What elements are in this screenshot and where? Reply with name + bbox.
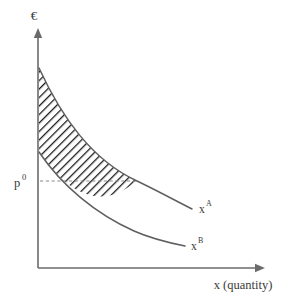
price-level-label: p 0 (14, 172, 26, 190)
curve-a-label-superscript: A (206, 199, 212, 208)
price-label-base: p (14, 176, 20, 190)
curve-b-label: x B (191, 236, 203, 252)
x-axis-label: x (quantity) (214, 278, 273, 292)
y-axis-label: € (31, 8, 38, 23)
price-label-superscript: 0 (22, 172, 26, 182)
x-axis-arrowhead (255, 264, 265, 272)
y-axis-arrowhead (34, 28, 42, 38)
curve-a-label-base: x (199, 203, 205, 215)
figure-canvas: € x (quantity) p 0 x A x B (0, 0, 286, 302)
economics-demand-curve-figure: € x (quantity) p 0 x A x B (0, 0, 286, 302)
shaded-region-between-curves (39, 68, 137, 196)
curve-b-label-base: x (191, 240, 197, 252)
curve-a-label: x A (199, 199, 212, 215)
curve-b-label-superscript: B (198, 236, 203, 245)
